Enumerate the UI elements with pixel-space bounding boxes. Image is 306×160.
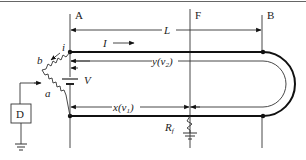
label-A: A	[75, 9, 83, 21]
label-L: L	[163, 24, 170, 36]
detector-lead	[20, 83, 40, 104]
label-Rf: Rf	[164, 121, 175, 135]
label-y: y(v2)	[151, 55, 173, 69]
ground-icon	[15, 144, 27, 150]
circuit-diagram: A F B L I y(v2) x(v1) V b a i D	[0, 0, 306, 160]
label-D: D	[16, 108, 24, 120]
node-B-bottom	[261, 114, 265, 118]
label-B: B	[267, 9, 274, 21]
conductor-loop	[70, 52, 295, 116]
resistor-b	[42, 52, 70, 70]
label-I: I	[102, 37, 108, 49]
label-i: i	[62, 41, 65, 53]
label-b: b	[37, 54, 43, 66]
y-dimension-path	[71, 61, 286, 107]
label-F: F	[195, 9, 201, 21]
node-B-top	[261, 50, 265, 54]
label-a: a	[45, 87, 51, 99]
fault-resistor	[187, 116, 192, 133]
label-x: x(v1)	[112, 101, 134, 115]
label-V: V	[84, 74, 92, 86]
